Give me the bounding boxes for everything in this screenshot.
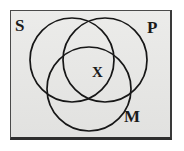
circle-m (47, 47, 131, 131)
venn-diagram-figure: S P M X (0, 0, 184, 151)
x-mark-label: X (92, 65, 103, 80)
circle-label-s: S (15, 17, 24, 34)
circle-label-p: P (147, 19, 157, 36)
circle-label-m: M (124, 108, 140, 125)
circle-p (63, 18, 147, 102)
circle-s (30, 18, 114, 102)
